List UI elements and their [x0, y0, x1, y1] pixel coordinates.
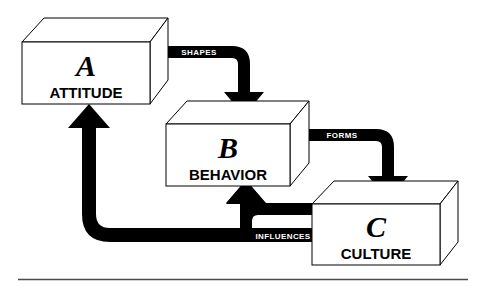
box-culture-letter: C	[366, 210, 387, 243]
box-behavior: B BEHAVIOR	[166, 101, 309, 186]
box-attitude: A ATTITUDE	[22, 18, 168, 104]
influences-behavior-arrow-label: INFLUENCES	[255, 217, 310, 226]
box-culture: C CULTURE	[312, 181, 458, 265]
abc-cycle-diagram: SHAPES FORMS INFLUENCES INFLUENCES A ATT…	[0, 0, 477, 289]
influences-behavior-stem	[240, 200, 252, 224]
influences-attitude-arrow-label: INFLUENCES	[255, 232, 310, 241]
box-attitude-top-face	[22, 18, 168, 42]
box-culture-top-face	[312, 181, 458, 204]
diagram-canvas: SHAPES FORMS INFLUENCES INFLUENCES A ATT…	[0, 0, 477, 289]
arrow-influences-behavior: INFLUENCES	[226, 180, 318, 228]
box-behavior-letter: B	[217, 131, 238, 164]
shapes-arrow-label: SHAPES	[181, 48, 217, 57]
forms-arrow-label: FORMS	[327, 131, 358, 140]
box-behavior-top-face	[166, 101, 309, 124]
box-behavior-caption: BEHAVIOR	[189, 166, 267, 183]
box-attitude-caption: ATTITUDE	[49, 84, 122, 101]
box-attitude-letter: A	[74, 49, 96, 82]
box-culture-caption: CULTURE	[341, 245, 412, 262]
